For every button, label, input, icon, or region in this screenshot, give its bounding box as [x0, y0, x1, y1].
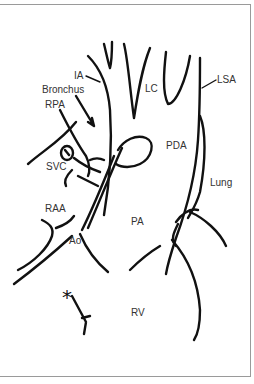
label-pa: PA	[131, 216, 144, 227]
label-lsa: LSA	[217, 74, 236, 85]
raa-inner	[56, 216, 74, 228]
label-svc: SVC	[46, 161, 67, 172]
raa-lower	[14, 236, 72, 284]
label-pda: PDA	[166, 140, 187, 151]
ao-lower-arc	[80, 234, 108, 272]
ia-leader	[86, 76, 100, 82]
descending-aorta-inner	[188, 116, 205, 218]
lung-branch	[190, 212, 226, 246]
lc-vessel-v	[124, 44, 150, 118]
lsa-vessel	[166, 58, 200, 274]
label-bronchus: Bronchus	[42, 84, 84, 95]
pa-right-wall	[172, 240, 200, 340]
label-ao: Ao	[69, 235, 82, 246]
lsa-leader	[202, 80, 216, 88]
label-rv: RV	[131, 307, 145, 318]
label-rpa: RPA	[45, 99, 65, 110]
lc-vessel-u	[164, 52, 190, 104]
svc-branch-2	[90, 159, 104, 161]
svc-ring-mark	[65, 150, 69, 155]
pa-left-curve	[130, 246, 160, 270]
ia-vessel-notch	[104, 42, 112, 68]
raa-upper	[18, 220, 53, 270]
heart-vessel-diagram: IA Bronchus RPA SVC RAA Ao LC LSA PDA Lu…	[0, 0, 254, 384]
label-ia: IA	[74, 70, 84, 81]
asterisk-pointer	[72, 296, 90, 334]
bronchus-pointer	[76, 96, 94, 126]
label-lung: Lung	[210, 177, 232, 188]
svc-left-wall	[65, 170, 72, 186]
label-lc: LC	[145, 83, 158, 94]
asterisk-marker: *	[62, 285, 72, 309]
svc-branch-3	[78, 176, 98, 186]
label-raa: RAA	[45, 203, 66, 214]
